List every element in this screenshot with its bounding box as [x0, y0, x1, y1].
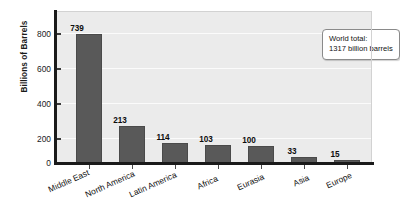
world-total-annotation: World total: 1317 billion barrels: [322, 29, 400, 60]
y-tick-label-200: 200: [11, 135, 51, 143]
bar-value-europe: 15: [322, 151, 348, 159]
bar-north-america[interactable]: [119, 126, 145, 163]
bar-value-asia: 33: [279, 148, 305, 156]
bar-africa[interactable]: [205, 145, 231, 163]
annotation-line-1: World total:: [329, 34, 393, 44]
bar-latin-america[interactable]: [162, 143, 188, 163]
bar-eurasia[interactable]: [248, 146, 274, 164]
x-tick-mark-africa: [218, 165, 219, 169]
x-category-label-europe: Europe: [325, 171, 353, 190]
bar-value-latin-america: 114: [150, 134, 176, 142]
x-tick-mark-eurasia: [261, 165, 262, 169]
x-axis-line: [54, 162, 374, 165]
y-tick-mark-200: [57, 138, 61, 140]
y-axis-title: Billions of Barrels: [20, 0, 29, 117]
bar-value-eurasia: 100: [236, 137, 262, 145]
x-tick-mark-europe: [347, 165, 348, 169]
x-tick-mark-middle-east: [89, 165, 90, 169]
gridline-400: [57, 103, 372, 104]
y-tick-mark-400: [57, 103, 61, 105]
annotation-line-2: 1317 billion barrels: [329, 44, 393, 54]
x-category-label-latin-america: Latin America: [128, 170, 178, 198]
x-tick-mark-latin-america: [175, 165, 176, 169]
y-tick-mark-800: [57, 33, 61, 35]
x-category-label-africa: Africa: [196, 174, 219, 190]
bar-value-africa: 103: [193, 136, 219, 144]
y-tick-label-0: 0: [11, 159, 51, 167]
y-tick-label-400: 400: [11, 100, 51, 108]
gridline-600: [57, 68, 372, 69]
x-category-label-asia: Asia: [292, 173, 310, 187]
x-category-label-north-america: North America: [84, 169, 136, 198]
x-tick-mark-asia: [304, 165, 305, 169]
bar-middle-east[interactable]: [76, 34, 102, 163]
bar-value-middle-east: 739: [64, 25, 90, 33]
y-tick-mark-600: [57, 68, 61, 70]
y-tick-label-600: 600: [11, 65, 51, 73]
bar-value-north-america: 213: [107, 117, 133, 125]
x-category-label-eurasia: Eurasia: [236, 172, 265, 191]
y-tick-label-800: 800: [11, 30, 51, 38]
